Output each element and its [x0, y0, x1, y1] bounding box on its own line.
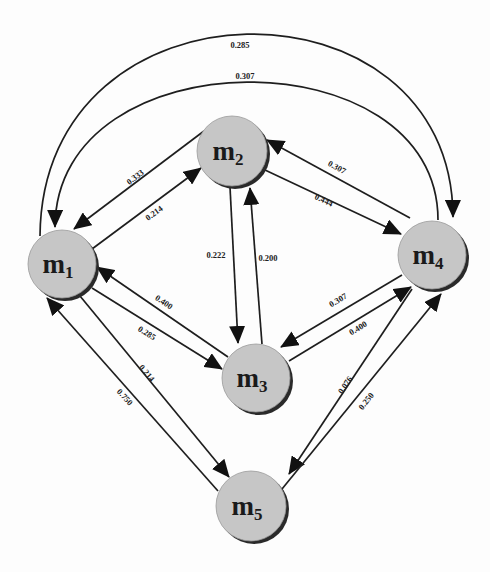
- weight-label-m1-m5: 0.214: [137, 362, 157, 384]
- weight-label-m3-m2: 0.200: [258, 253, 277, 263]
- weight-label-m4-m3: 0.307: [327, 290, 349, 309]
- edge-m5-m1: [47, 298, 218, 491]
- weight-label-m1-m4: 0.285: [230, 40, 249, 50]
- edge-m4-m3: [281, 275, 402, 347]
- node-m5: m5: [216, 471, 289, 544]
- weight-label-m3-m4: 0.400: [347, 319, 369, 337]
- node-m4: m4: [398, 221, 469, 292]
- weight-label-m2-m4: 0.444: [313, 191, 335, 208]
- edges: [40, 34, 453, 491]
- weight-label-m2-m3: 0.222: [206, 250, 225, 260]
- node-m2: m2: [197, 116, 270, 189]
- weight-label-m5-m1: 0.750: [115, 387, 135, 408]
- node-m3: m3: [222, 344, 293, 415]
- edge-m3-m1: [97, 267, 228, 357]
- edge-m3-m2: [250, 188, 262, 344]
- node-m1: m1: [28, 230, 99, 301]
- weight-label-m1-m2: 0.214: [143, 203, 165, 223]
- edge-m4-m2: [267, 140, 410, 218]
- markov-transition-diagram: 0.285 0.307 0.333 0.214 0.307 0.444 0.22…: [0, 0, 490, 572]
- edge-m2-m3: [230, 187, 238, 343]
- diagram-canvas: 0.285 0.307 0.333 0.214 0.307 0.444 0.22…: [0, 0, 490, 572]
- weight-label-m4-m1: 0.307: [235, 71, 255, 81]
- edge-m3-m4: [289, 287, 411, 361]
- edge-m1-m5: [80, 296, 229, 477]
- edge-m1-m2: [92, 168, 201, 249]
- weight-label-m4-m5: 0.076: [336, 374, 355, 395]
